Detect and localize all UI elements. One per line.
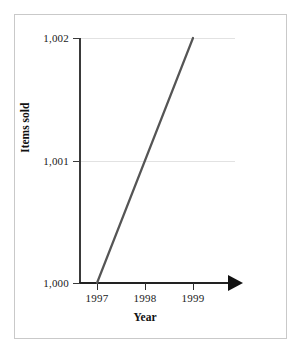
x-axis-title: Year xyxy=(92,312,198,324)
chart-page: 1,002 1,001 1,000 1997 1998 1999 Year It… xyxy=(0,0,303,356)
plot-area: 1,002 1,001 1,000 1997 1998 1999 Year It… xyxy=(0,0,303,356)
y-axis-title: Items sold xyxy=(20,88,32,168)
series-line-items-sold xyxy=(0,0,303,356)
